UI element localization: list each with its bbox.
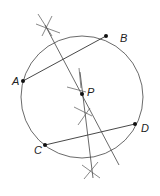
point-c [43, 143, 47, 147]
chord-cd [45, 124, 135, 145]
circle [21, 36, 143, 158]
chord-ab [23, 36, 106, 81]
point-d [133, 122, 137, 126]
point-a [21, 79, 25, 83]
geometry-diagram: A B C D P [0, 0, 160, 196]
label-c: C [34, 144, 42, 156]
label-p: P [87, 86, 95, 98]
label-a: A [11, 75, 19, 87]
point-p [80, 92, 84, 96]
point-b [104, 34, 108, 38]
label-b: B [120, 32, 127, 44]
label-d: D [141, 122, 149, 134]
